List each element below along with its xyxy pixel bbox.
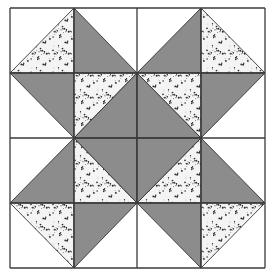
solid-triangle-piece	[74, 8, 137, 73]
print-triangle-piece	[201, 8, 265, 73]
solid-triangle-piece	[137, 203, 201, 268]
print-triangle-piece	[201, 203, 265, 268]
solid-triangle-piece	[10, 138, 74, 203]
print-triangle-piece	[10, 8, 74, 73]
solid-triangle-piece	[201, 73, 265, 138]
solid-triangle-piece	[137, 8, 201, 73]
solid-triangle-piece	[201, 138, 265, 203]
solid-triangle-piece	[10, 73, 74, 138]
quilt-block-diagram	[0, 0, 277, 275]
print-triangle-piece	[10, 203, 74, 268]
solid-triangle-piece	[74, 203, 137, 268]
